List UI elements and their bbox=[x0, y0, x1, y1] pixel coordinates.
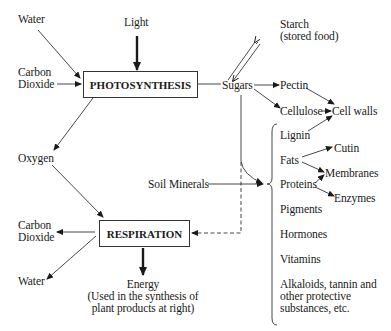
proteins-label: Proteins bbox=[280, 178, 317, 190]
input-water-label: Water bbox=[18, 13, 45, 25]
alkaloids-label-line3: substances, etc. bbox=[280, 302, 350, 314]
cellulose-label: Cellulose bbox=[280, 105, 323, 117]
respiration-box: RESPIRATION bbox=[99, 220, 190, 247]
cell-walls-label: Cell walls bbox=[332, 105, 377, 117]
pectin-label: Pectin bbox=[280, 79, 308, 91]
cutin-label: Cutin bbox=[334, 142, 359, 154]
input-carbon-dioxide-line2: Dioxide bbox=[18, 78, 54, 90]
input-carbon-dioxide-line1: Carbon bbox=[18, 66, 51, 78]
plant-metabolism-diagram: Water Light Carbon Dioxide PHOTOSYNTHESI… bbox=[0, 0, 391, 331]
pigments-label: Pigments bbox=[280, 203, 322, 215]
energy-label-line1: Energy bbox=[87, 278, 199, 290]
fats-label: Fats bbox=[280, 154, 299, 166]
lignin-label: Lignin bbox=[280, 129, 310, 141]
energy-label-line3: plant products at right) bbox=[82, 302, 204, 314]
starch-label-line2: (stored food) bbox=[280, 30, 338, 42]
alkaloids-label-line2: other protective bbox=[280, 290, 351, 302]
soil-minerals-label: Soil Minerals bbox=[148, 178, 209, 190]
sugars-label: Sugars bbox=[222, 79, 253, 91]
hormones-label: Hormones bbox=[280, 228, 327, 240]
oxygen-label: Oxygen bbox=[18, 152, 54, 164]
vitamins-label: Vitamins bbox=[280, 253, 321, 265]
input-light-label: Light bbox=[124, 16, 148, 28]
enzymes-label: Enzymes bbox=[334, 192, 375, 204]
output-water-label: Water bbox=[18, 275, 45, 287]
energy-label-line2: (Used in the synthesis of bbox=[82, 290, 204, 302]
output-carbon-dioxide-line2: Dioxide bbox=[18, 231, 54, 243]
output-carbon-dioxide-line1: Carbon bbox=[18, 219, 51, 231]
membranes-label: Membranes bbox=[325, 167, 378, 179]
photosynthesis-box: PHOTOSYNTHESIS bbox=[83, 71, 198, 98]
alkaloids-label-line1: Alkaloids, tannin and bbox=[280, 278, 377, 290]
starch-label-line1: Starch bbox=[280, 18, 309, 30]
